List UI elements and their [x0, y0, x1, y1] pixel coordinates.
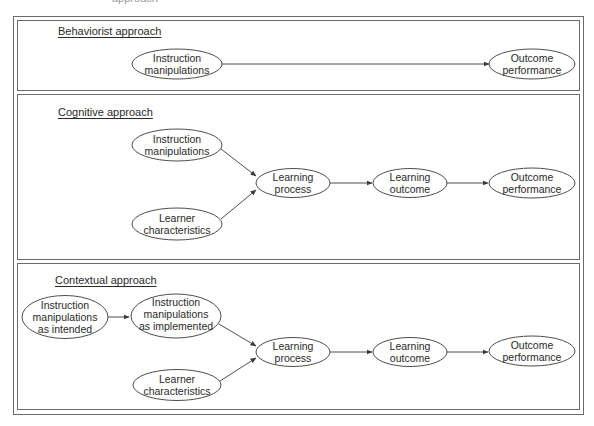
label-b-instruction-manipulations: Instruction manipulations: [132, 50, 222, 78]
contextual-title: Contextual approach: [55, 274, 157, 286]
label-line: Instruction: [153, 52, 201, 64]
label-line: Learning: [390, 340, 431, 352]
label-x-instruction-as-implemented: Instruction manipulations as implemented: [131, 293, 221, 335]
label-line: performance: [503, 64, 562, 76]
label-line: characteristics: [143, 385, 210, 397]
label-c-instruction-manipulations: Instruction manipulations: [132, 131, 222, 159]
edge-c-lc-lp: [221, 190, 256, 219]
diagram-canvas: approach Behaviorist approach Cognitive …: [0, 0, 594, 426]
label-line: process: [275, 352, 312, 364]
label-c-learning-process: Learning process: [256, 169, 330, 197]
label-line: manipulations: [144, 308, 209, 320]
label-line: as intended: [38, 323, 92, 335]
label-line: Outcome: [511, 171, 554, 183]
behaviorist-title: Behaviorist approach: [58, 25, 161, 37]
label-line: performance: [503, 351, 562, 363]
label-line: Outcome: [511, 339, 554, 351]
label-line: Learning: [273, 340, 314, 352]
label-line: characteristics: [143, 224, 210, 236]
label-x-learning-outcome: Learning outcome: [373, 338, 447, 366]
label-line: manipulations: [145, 145, 210, 157]
edge-c-im-lp: [221, 149, 256, 176]
edge-x-ip-lp: [219, 324, 256, 346]
label-line: performance: [503, 183, 562, 195]
label-line: outcome: [390, 352, 430, 364]
label-line: Learning: [390, 171, 431, 183]
label-line: manipulations: [145, 64, 210, 76]
label-c-learner-characteristics: Learner characteristics: [132, 210, 222, 238]
label-x-learner-characteristics: Learner characteristics: [133, 371, 221, 399]
label-x-outcome-performance: Outcome performance: [489, 337, 575, 365]
cognitive-title: Cognitive approach: [58, 106, 153, 118]
edge-x-lc-lp: [220, 358, 256, 381]
label-line: Instruction: [153, 133, 201, 145]
label-line: outcome: [390, 183, 430, 195]
label-c-learning-outcome: Learning outcome: [373, 169, 447, 197]
label-line: Learner: [159, 212, 195, 224]
label-x-learning-process: Learning process: [256, 338, 330, 366]
label-line: manipulations: [33, 311, 98, 323]
label-line: as implemented: [139, 320, 213, 332]
label-line: Learner: [159, 373, 195, 385]
label-line: Instruction: [41, 299, 89, 311]
label-line: process: [275, 183, 312, 195]
label-c-outcome-performance: Outcome performance: [489, 169, 575, 197]
label-line: Instruction: [152, 296, 200, 308]
label-line: Learning: [273, 171, 314, 183]
label-x-instruction-as-intended: Instruction manipulations as intended: [22, 296, 108, 338]
label-b-outcome-performance: Outcome performance: [489, 50, 575, 78]
label-line: Outcome: [511, 52, 554, 64]
top-cropped-text: approach: [112, 0, 158, 4]
